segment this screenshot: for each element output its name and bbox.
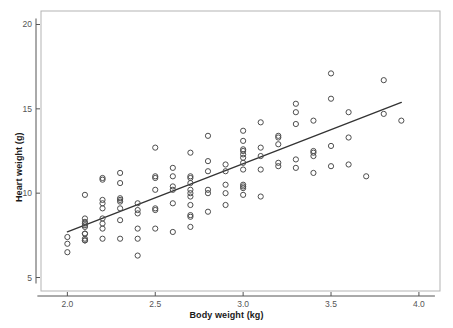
plot-svg: 5101520 2.02.53.03.54.0 — [0, 0, 453, 328]
y-tick-label: 10 — [23, 188, 33, 198]
y-axis-ticks: 5101520 — [23, 18, 40, 283]
x-tick-label: 2.0 — [61, 299, 73, 309]
x-tick-label: 4.0 — [413, 299, 425, 309]
y-tick-label: 5 — [27, 273, 32, 283]
x-tick-label: 3.5 — [325, 299, 337, 309]
x-tick-label: 2.5 — [149, 299, 161, 309]
x-axis-ticks: 2.02.53.03.54.0 — [37, 292, 435, 309]
y-tick-label: 15 — [23, 104, 33, 114]
scatter-chart-figure: Heart weight (g) Body weight (kg) 510152… — [0, 0, 453, 328]
y-tick-label: 20 — [23, 19, 33, 29]
x-tick-label: 3.0 — [237, 299, 249, 309]
